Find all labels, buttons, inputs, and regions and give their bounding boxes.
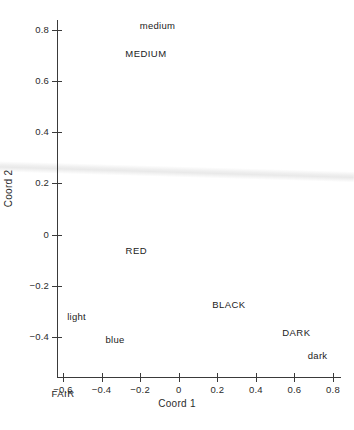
y-axis-tick <box>52 286 62 287</box>
x-axis-tick <box>102 373 103 382</box>
y-axis-tick-label: 0.6 <box>19 75 49 86</box>
x-axis-title: Coord 1 <box>0 398 354 409</box>
correspondence-analysis-plot: 0.80.60.40.20−0.2−0.4−0.6−0.4−0.200.20.4… <box>0 0 354 430</box>
x-axis-tick-label: 0.8 <box>316 384 350 395</box>
y-axis-tick <box>52 81 62 82</box>
y-axis-tick-label: 0 <box>19 229 49 240</box>
y-axis-tick-label: 0.2 <box>19 177 49 188</box>
y-axis-tick <box>52 183 62 184</box>
x-axis-tick <box>140 373 141 382</box>
y-axis-tick <box>52 30 62 31</box>
y-axis-tick-label: 0.8 <box>19 24 49 35</box>
y-axis-line <box>57 20 58 378</box>
data-point-label: MEDIUM <box>125 48 166 59</box>
x-axis-tick <box>294 373 295 382</box>
x-axis-tick <box>179 373 180 382</box>
y-axis-title: Coord 2 <box>3 159 14 219</box>
data-point-label: BLACK <box>212 298 245 309</box>
x-axis-tick-label: 0.4 <box>239 384 273 395</box>
data-point-label: RED <box>126 244 147 255</box>
x-axis-tick <box>217 373 218 382</box>
data-point-label: dark <box>308 349 327 360</box>
x-axis-tick <box>333 373 334 382</box>
x-axis-tick <box>63 373 64 382</box>
x-axis-tick-label: 0.6 <box>277 384 311 395</box>
y-axis-tick <box>52 337 62 338</box>
data-point-label: light <box>67 311 86 322</box>
data-point-label: medium <box>140 19 175 30</box>
y-axis-tick <box>52 132 62 133</box>
y-axis-tick-label: −0.2 <box>19 280 49 291</box>
x-axis-tick <box>256 373 257 382</box>
scan-crease-line <box>0 161 354 182</box>
data-point-label: DARK <box>282 326 310 337</box>
x-axis-tick-label: −0.4 <box>85 384 119 395</box>
data-point-label: blue <box>106 334 125 345</box>
y-axis-tick <box>52 235 62 236</box>
x-axis-tick-label: −0.2 <box>123 384 157 395</box>
x-axis-tick-label: 0.2 <box>200 384 234 395</box>
y-axis-tick-label: 0.4 <box>19 126 49 137</box>
x-axis-line <box>57 377 341 378</box>
data-point-label: FAIR <box>52 387 75 398</box>
x-axis-tick-label: 0 <box>162 384 196 395</box>
y-axis-tick-label: −0.4 <box>19 331 49 342</box>
